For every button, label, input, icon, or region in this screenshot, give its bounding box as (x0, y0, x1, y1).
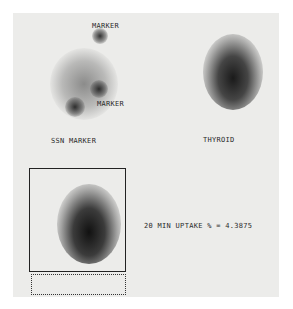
uptake-result-text: 20 MIN UPTAKE % = 4.3875 (144, 222, 252, 230)
roi-thyroid-blob (57, 184, 121, 264)
marker-dot-top (92, 28, 108, 44)
thyroid-label: THYROID (203, 136, 235, 144)
marker-label-top: MARKER (92, 22, 119, 30)
marker-label-right: MARKER (97, 100, 124, 108)
thyroid-blob (203, 34, 263, 110)
ssn-marker-label: SSN MARKER (51, 137, 96, 145)
marker-dot-right (90, 80, 108, 98)
marker-dot-ssn (65, 97, 85, 117)
background-roi-box (31, 274, 126, 295)
